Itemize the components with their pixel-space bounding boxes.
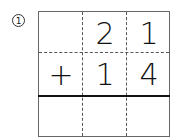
cell-r0-c0 xyxy=(39,12,83,54)
cell-r1-c0: + xyxy=(39,53,83,95)
cell-r1-c2: 4 xyxy=(127,53,171,95)
addition-grid: 2 1 + 1 4 xyxy=(38,11,170,137)
answer-cell-c2[interactable] xyxy=(127,96,171,138)
cell-r0-c2: 1 xyxy=(127,12,171,54)
answer-cell-c1[interactable] xyxy=(83,96,127,138)
answer-cell-c0[interactable] xyxy=(39,96,83,138)
cell-r0-c1: 2 xyxy=(83,12,127,54)
problem-number-badge: 1 xyxy=(12,14,25,27)
cell-r1-c1: 1 xyxy=(83,53,127,95)
